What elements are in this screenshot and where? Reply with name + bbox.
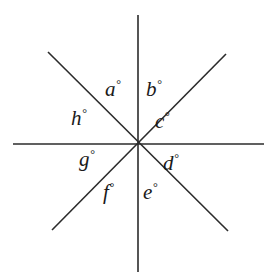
angle-letter-d: d — [163, 151, 174, 175]
diagram-canvas — [0, 0, 270, 277]
degree-symbol-e: ° — [153, 180, 158, 194]
angle-label-b: b° — [146, 78, 162, 100]
angle-label-g: g° — [79, 148, 95, 170]
degree-symbol-a: ° — [116, 77, 121, 91]
angle-letter-g: g — [79, 147, 90, 171]
angle-label-e: e° — [143, 181, 158, 203]
angle-letter-f: f — [103, 180, 109, 204]
angle-letter-c: c — [155, 109, 165, 133]
degree-symbol-d: ° — [174, 151, 179, 165]
angle-letter-e: e — [143, 180, 153, 204]
degree-symbol-h: ° — [82, 106, 87, 120]
degree-symbol-c: ° — [165, 109, 170, 123]
angle-label-d: d° — [163, 152, 179, 174]
degree-symbol-b: ° — [157, 77, 162, 91]
angle-letter-h: h — [71, 106, 82, 130]
angle-label-h: h° — [71, 107, 87, 129]
angle-label-c: c° — [155, 110, 170, 132]
angle-diagram: a° b° c° d° e° f° g° h° — [0, 0, 270, 277]
angle-label-a: a° — [105, 78, 121, 100]
degree-symbol-g: ° — [90, 147, 95, 161]
degree-symbol-f: ° — [110, 180, 115, 194]
angle-label-f: f° — [103, 181, 115, 203]
angle-letter-a: a — [105, 77, 116, 101]
angle-letter-b: b — [146, 77, 157, 101]
